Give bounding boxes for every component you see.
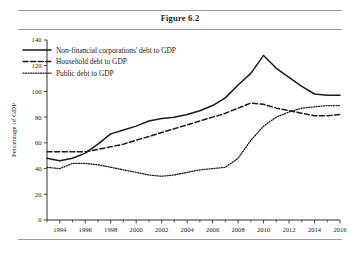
- y-tick-label: 140: [32, 36, 43, 43]
- x-tick-label: 2010: [257, 226, 271, 233]
- y-tick-label: 60: [35, 139, 42, 146]
- x-tick-label: 1998: [104, 226, 118, 233]
- x-tick-label: 2002: [155, 226, 168, 233]
- y-tick-label: 40: [35, 165, 42, 172]
- series-line-2: [47, 106, 340, 177]
- x-tick-label: 2004: [181, 226, 195, 233]
- x-tick-label: 2014: [308, 226, 322, 233]
- x-tick-label: 2006: [206, 226, 220, 233]
- y-tick-label: 120: [32, 62, 43, 69]
- legend-label-0: Non-financial corporations' debt to GDP: [56, 46, 176, 55]
- x-tick-label: 2016: [333, 226, 347, 233]
- rule-top: [18, 10, 342, 11]
- x-tick-label: 2012: [282, 226, 295, 233]
- x-tick-label: 2008: [231, 226, 245, 233]
- legend-label-2: Public debt to GDP: [56, 69, 114, 78]
- legend-label-1: Household debt to GDP: [56, 57, 127, 66]
- x-tick-label: 2000: [130, 226, 144, 233]
- chart-plot-area: 0204060801001201401994199619982000200220…: [0, 32, 360, 232]
- figure-title: Figure 6.2: [0, 13, 360, 23]
- y-tick-label: 0: [38, 216, 42, 223]
- x-tick-label: 1996: [79, 226, 93, 233]
- y-axis-title: Percentage of GDP: [10, 103, 18, 157]
- x-tick-label: 1994: [53, 226, 67, 233]
- figure-container: Figure 6.2 02040608010012014019941996199…: [0, 0, 360, 255]
- y-tick-label: 20: [35, 191, 42, 198]
- chart-legend: Non-financial corporations' debt to GDPH…: [23, 46, 176, 78]
- y-tick-label: 100: [32, 88, 43, 95]
- rule-bottom: [18, 239, 342, 240]
- series-line-1: [47, 103, 340, 152]
- rule-under-title: [18, 29, 342, 30]
- y-tick-label: 80: [35, 114, 42, 121]
